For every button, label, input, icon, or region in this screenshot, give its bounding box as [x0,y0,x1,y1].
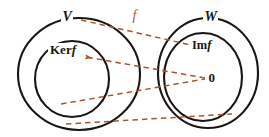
label-kernel: Kerf [48,43,78,56]
label-domain-set-V: V [61,10,73,24]
label-codomain-set-W: W [203,10,218,24]
label-image-suffix: f [207,38,211,52]
label-kernel-suffix: f [72,42,76,57]
label-kernel-prefix: Ker [50,42,72,57]
arrow-V-to-Imf [81,20,195,46]
label-zero-vector: 0 [207,71,217,84]
label-image: Imf [190,39,213,52]
label-map-f: f [131,9,138,23]
linear-map-kernel-image-diagram: V W Kerf Imf 0 f [0,0,269,137]
label-image-prefix: Im [192,38,207,52]
arrow-bottom-V-to-W [66,114,232,124]
set-curves [18,18,258,130]
